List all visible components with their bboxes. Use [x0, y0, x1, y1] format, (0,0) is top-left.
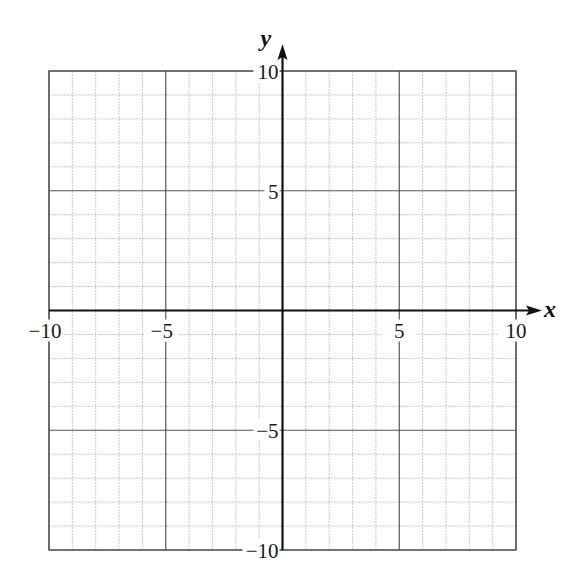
y-tick-label: 5: [268, 180, 279, 204]
coordinate-grid: −10−5510105−5−10 x y: [0, 0, 581, 578]
y-tick-label: −10: [246, 539, 279, 563]
axes: [49, 44, 542, 550]
x-tick-label: −5: [151, 319, 173, 343]
x-tick-label: 5: [394, 319, 405, 343]
y-tick-label: −5: [256, 419, 278, 443]
y-tick-label: 10: [258, 60, 279, 84]
y-axis-label: y: [258, 25, 272, 51]
x-tick-label: −10: [29, 319, 62, 343]
x-axis-label: x: [543, 296, 556, 322]
x-tick-label: 10: [506, 319, 527, 343]
